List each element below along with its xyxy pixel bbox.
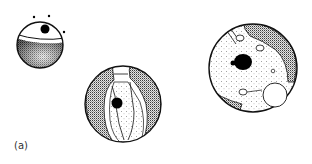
large-vesicle <box>263 83 287 107</box>
figure-canvas <box>0 0 312 164</box>
vesicle <box>256 45 264 51</box>
nucleus <box>41 25 50 34</box>
small-sphere <box>15 15 66 72</box>
nucleus <box>112 98 123 109</box>
panel-label: (a) <box>14 140 28 151</box>
nucleus <box>234 54 252 70</box>
large-sphere <box>205 20 305 120</box>
vesicle <box>236 35 244 41</box>
vesicle <box>239 89 247 95</box>
dot <box>33 16 35 18</box>
dot <box>63 31 65 33</box>
middle-sphere <box>85 60 161 145</box>
vesicle <box>271 69 275 73</box>
dot <box>48 15 50 17</box>
